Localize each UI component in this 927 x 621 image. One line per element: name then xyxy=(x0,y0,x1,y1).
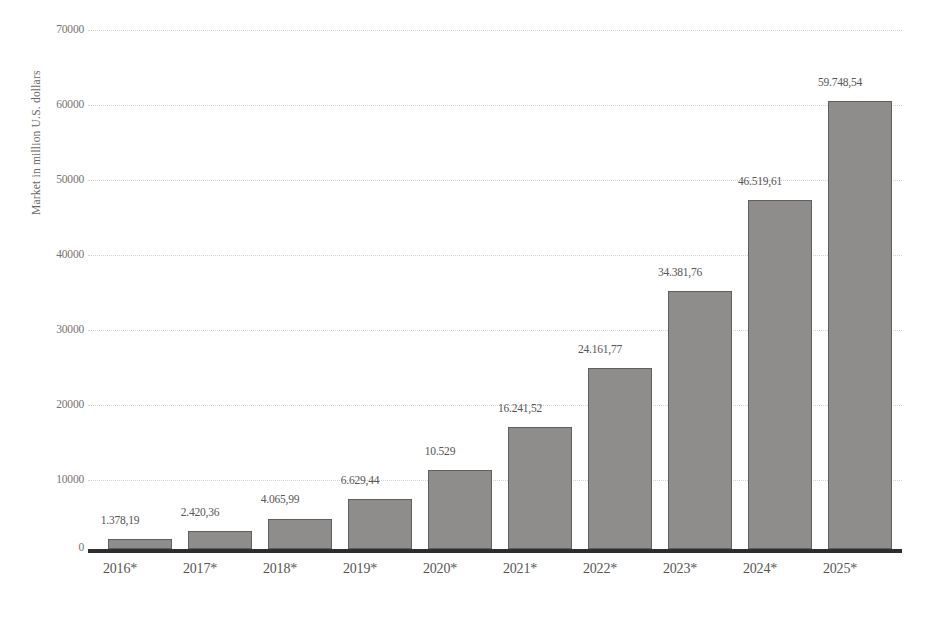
y-tick-label: 50000 xyxy=(28,173,84,185)
y-tick-label: 20000 xyxy=(28,398,84,410)
x-axis-line xyxy=(88,549,902,553)
bar-value-label-2019: 6.629,44 xyxy=(308,474,412,486)
bar-value-label-2021: 16.241,52 xyxy=(468,402,572,414)
bar-value-label-2017: 2.420,36 xyxy=(148,506,252,518)
y-tick-label: 30000 xyxy=(28,323,84,335)
bar-2016 xyxy=(108,539,172,549)
bar-2018 xyxy=(268,519,332,549)
bar-value-label-2022: 24.161,77 xyxy=(548,343,652,355)
bar-2017 xyxy=(188,531,252,549)
bar-chart: Market in million U.S. dollars 70000 600… xyxy=(0,0,927,621)
bar-value-label-2020: 10.529 xyxy=(388,445,492,457)
y-tick-label: 40000 xyxy=(28,248,84,260)
bar-value-label-2024: 46.519,61 xyxy=(708,175,812,187)
bar-2025 xyxy=(828,101,892,549)
bar-2022 xyxy=(588,368,652,549)
bar-2021 xyxy=(508,427,572,549)
y-tick-label: 10000 xyxy=(28,473,84,485)
bar-value-label-2018: 4.065,99 xyxy=(228,493,332,505)
plot-area xyxy=(88,24,902,549)
bar-value-label-2023: 34.381,76 xyxy=(628,266,732,278)
y-tick-label: 70000 xyxy=(28,23,84,35)
bar-value-label-2025: 59.748,54 xyxy=(788,76,892,88)
bar-2024 xyxy=(748,200,812,549)
x-tick-label-2025: 2025* xyxy=(788,561,892,577)
y-tick-label: 60000 xyxy=(28,98,84,110)
bar-2020 xyxy=(428,470,492,549)
y-tick-label: 0 xyxy=(28,541,84,553)
bar-2023 xyxy=(668,291,732,549)
bar-2019 xyxy=(348,499,412,549)
